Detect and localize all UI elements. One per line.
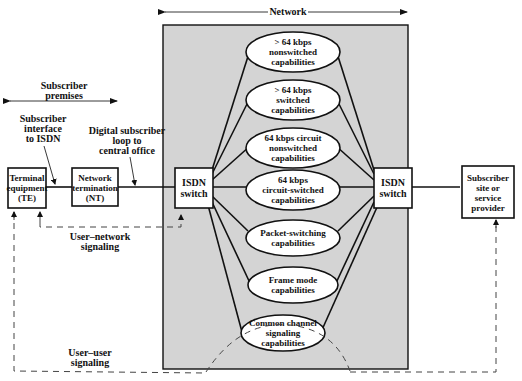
- svg-text:> 64 kbps: > 64 kbps: [274, 37, 312, 47]
- svg-text:capabilities: capabilities: [271, 153, 315, 163]
- subscriber-premises-span: Subscriber premises: [10, 80, 117, 101]
- svg-text:switch: switch: [379, 188, 407, 199]
- svg-text:Common channel: Common channel: [249, 318, 317, 328]
- svg-text:> 64 kbps: > 64 kbps: [274, 85, 312, 95]
- subscriber-premises-label-2: premises: [45, 90, 83, 101]
- svg-text:(TE): (TE): [18, 193, 36, 203]
- network-label: Network: [269, 6, 307, 17]
- svg-text:to ISDN: to ISDN: [26, 133, 62, 144]
- svg-text:site or: site or: [476, 183, 500, 193]
- capability-64-circuit-nonswitched: 64 kbps circuit nonswitched capabilities: [246, 128, 340, 168]
- svg-text:Packet-switching: Packet-switching: [260, 228, 326, 238]
- network-span-arrow: Network: [165, 5, 407, 17]
- terminal-equipment-box: Terminal equipment (TE): [6, 168, 47, 208]
- svg-text:signaling: signaling: [81, 241, 119, 252]
- svg-text:signaling: signaling: [266, 328, 301, 338]
- svg-text:provider: provider: [471, 203, 504, 213]
- svg-text:switch: switch: [180, 188, 208, 199]
- network-termination-box: Network termination (NT): [72, 168, 118, 206]
- svg-text:capabilities: capabilities: [271, 285, 315, 295]
- svg-text:capabilities: capabilities: [271, 195, 315, 205]
- capability-gt64-switched: > 64 kbps switched capabilities: [246, 80, 340, 120]
- capability-gt64-nonswitched: > 64 kbps nonswitched capabilities: [246, 32, 340, 72]
- svg-text:Network: Network: [78, 173, 112, 183]
- capability-64-circuit-switched: 64 kbps circuit-switched capabilities: [246, 170, 340, 210]
- svg-text:equipment: equipment: [6, 183, 47, 193]
- svg-text:ISDN: ISDN: [182, 177, 207, 188]
- svg-text:capabilities: capabilities: [261, 338, 305, 348]
- capability-packet-switching: Packet-switching capabilities: [246, 220, 340, 256]
- svg-text:(NT): (NT): [86, 193, 105, 203]
- svg-text:ISDN: ISDN: [381, 177, 406, 188]
- svg-text:signaling: signaling: [71, 357, 109, 368]
- svg-text:central office: central office: [99, 145, 155, 156]
- svg-text:circuit-switched: circuit-switched: [262, 185, 323, 195]
- user-network-signaling-path: User–network signaling: [40, 212, 181, 252]
- svg-text:Subscriber: Subscriber: [467, 173, 509, 183]
- svg-text:nonswitched: nonswitched: [269, 47, 317, 57]
- svg-text:capabilities: capabilities: [271, 57, 315, 67]
- capability-frame-mode: Frame mode capabilities: [248, 267, 338, 303]
- svg-text:capabilities: capabilities: [271, 238, 315, 248]
- svg-text:Terminal: Terminal: [9, 173, 45, 183]
- isdn-architecture-diagram: Network Subscriber premises Subscriber i…: [0, 0, 522, 381]
- capability-common-channel-signaling: Common channel signaling capabilities: [241, 315, 325, 351]
- svg-text:nonswitched: nonswitched: [269, 143, 317, 153]
- svg-text:termination: termination: [72, 183, 118, 193]
- svg-text:capabilities: capabilities: [271, 105, 315, 115]
- isdn-switch-left: ISDN switch: [175, 168, 213, 208]
- svg-text:64 kbps: 64 kbps: [278, 175, 308, 185]
- subscriber-site-box: Subscriber site or service provider: [462, 166, 514, 218]
- svg-text:64 kbps circuit: 64 kbps circuit: [265, 133, 322, 143]
- svg-text:Frame mode: Frame mode: [269, 275, 318, 285]
- isdn-switch-right: ISDN switch: [374, 168, 412, 208]
- svg-text:service: service: [475, 193, 501, 203]
- svg-text:switched: switched: [276, 95, 310, 105]
